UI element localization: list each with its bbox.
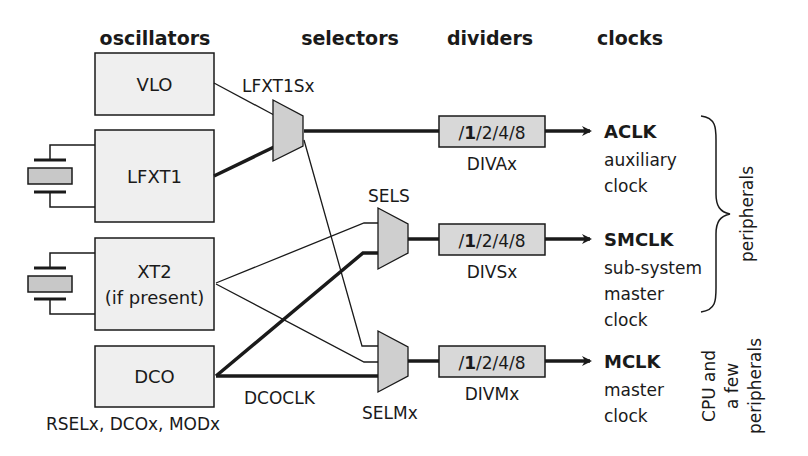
clock-mclk-name: MCLK: [604, 351, 662, 372]
divider-divs-label: DIVSx: [467, 262, 518, 282]
divider-divm-label: DIVMx: [465, 384, 519, 404]
svg-text:master: master: [604, 284, 664, 304]
xt2-label: XT2: [137, 261, 171, 282]
svg-text:peripherals: peripherals: [745, 338, 765, 434]
svg-text:sub-system: sub-system: [604, 258, 702, 278]
mux-sels-label: SELS: [368, 186, 410, 206]
clock-smclk: SMCLK sub-system master clock: [604, 229, 702, 330]
mux-selmx: [378, 331, 408, 392]
svg-text:clock: clock: [604, 406, 648, 426]
lfxt1-label: LFXT1: [127, 166, 182, 187]
oscillator-vlo: VLO: [95, 53, 214, 115]
svg-text:clock: clock: [604, 310, 648, 330]
mux-lfxt1sx-label: LFXT1Sx: [242, 76, 315, 96]
svg-text:CPU and: CPU and: [699, 350, 719, 422]
svg-text:master: master: [604, 380, 664, 400]
header-dividers: dividers: [447, 27, 533, 49]
svg-text:a few: a few: [722, 363, 742, 409]
mux-lfxt1sx: [273, 100, 303, 161]
header-selectors: selectors: [301, 27, 399, 49]
crystal-icon: [28, 253, 95, 314]
divider-divm: /1/2/4/8 DIVMx: [439, 346, 545, 404]
clock-mclk: MCLK master clock: [604, 351, 664, 426]
dco-control-bits: RSELx, DCOx, MODx: [46, 414, 220, 434]
divider-diva: /1/2/4/8 DIVAx: [439, 116, 545, 174]
destination-cpu: CPU and a few peripherals: [699, 338, 765, 434]
oscillator-xt2: XT2 (if present): [95, 238, 214, 330]
svg-text:/1/2/4/8: /1/2/4/8: [458, 123, 525, 143]
svg-text:clock: clock: [604, 176, 648, 196]
brace-icon: [701, 116, 730, 312]
divider-divs: /1/2/4/8 DIVSx: [439, 224, 545, 282]
mux-selmx-label: SELMx: [362, 403, 418, 423]
header-clocks: clocks: [597, 27, 663, 49]
output-arrows: [545, 131, 590, 361]
clock-system-diagram: oscillators selectors dividers clocks VL…: [0, 0, 808, 456]
header-oscillators: oscillators: [100, 27, 211, 49]
crystal-icon: [28, 145, 95, 207]
mux-sels: [378, 208, 408, 269]
oscillator-lfxt1: LFXT1: [95, 130, 214, 222]
oscillator-dco: DCO: [95, 346, 214, 407]
svg-text:auxiliary: auxiliary: [604, 150, 677, 170]
dcoclk-label: DCOCLK: [244, 388, 316, 408]
clock-aclk: ACLK auxiliary clock: [604, 121, 677, 196]
dco-label: DCO: [134, 366, 175, 387]
divider-diva-label: DIVAx: [467, 154, 517, 174]
svg-text:/1/2/4/8: /1/2/4/8: [458, 231, 525, 251]
destination-peripherals: peripherals: [737, 166, 757, 262]
xt2-sublabel: (if present): [105, 287, 205, 308]
vlo-label: VLO: [137, 74, 173, 95]
clock-aclk-name: ACLK: [604, 121, 658, 142]
clock-smclk-name: SMCLK: [604, 229, 675, 250]
svg-text:/1/2/4/8: /1/2/4/8: [458, 353, 525, 373]
